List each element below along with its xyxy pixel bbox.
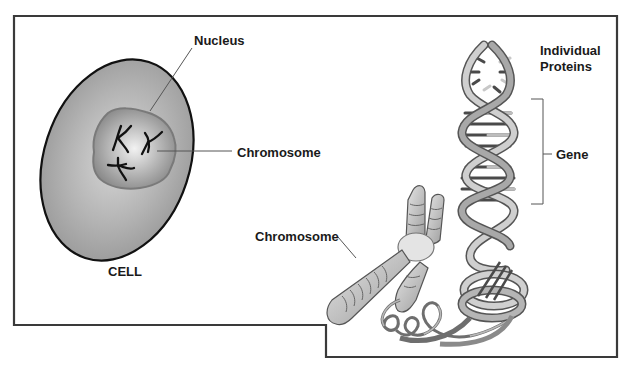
label-nucleus: Nucleus bbox=[194, 33, 245, 48]
diagram-illustration bbox=[0, 0, 630, 370]
label-chromosome-cell: Chromosome bbox=[237, 145, 321, 160]
label-cell: CELL bbox=[108, 264, 142, 279]
diagram-canvas: Nucleus Chromosome CELL Chromosome Indiv… bbox=[0, 0, 630, 370]
label-chromosome: Chromosome bbox=[255, 229, 339, 244]
cell-illustration bbox=[16, 39, 219, 280]
label-gene: Gene bbox=[556, 147, 589, 162]
nucleus-shape bbox=[93, 108, 175, 188]
label-proteins: Proteins bbox=[540, 59, 592, 74]
label-individual: Individual bbox=[540, 43, 601, 58]
